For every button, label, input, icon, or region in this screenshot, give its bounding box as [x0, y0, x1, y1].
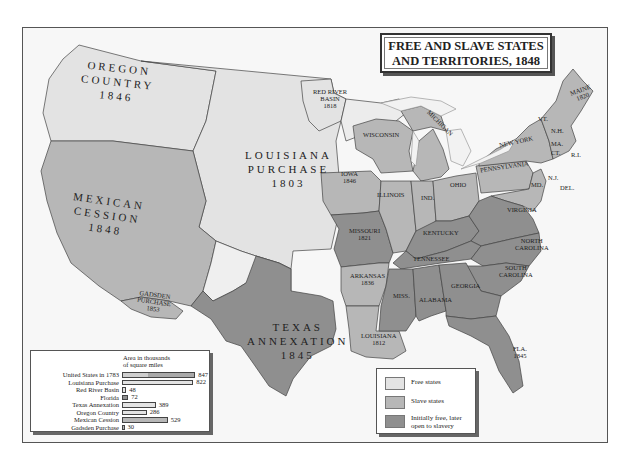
chart-category-label: Florida	[100, 394, 119, 401]
label-year: 1818	[313, 103, 347, 110]
chart-row: Texas Annexation389	[31, 401, 211, 408]
label-ohio: OHIO	[450, 182, 466, 189]
chart-row: Mexican Cession529	[31, 416, 211, 423]
chart-row: Red River Basin48	[31, 386, 211, 393]
chart-value-label: 847	[198, 371, 208, 378]
chart-row: United States in 1783847	[31, 371, 211, 378]
label-ri: R.I.	[571, 152, 581, 159]
label-text: TEXAS	[247, 321, 349, 335]
label-south-carolina: SOUTH CAROLINA	[499, 265, 533, 279]
label-illinois: ILLINOIS	[377, 192, 404, 199]
chart-bar	[122, 372, 195, 378]
chart-category-label: Mexican Cession	[74, 416, 119, 423]
label-year: 1821	[349, 235, 380, 242]
chart-value-label: 822	[196, 378, 206, 385]
chart-heading-line: of square miles	[123, 361, 170, 368]
legend-label: Free states	[411, 378, 441, 386]
legend-label-line: open to slavery	[411, 422, 462, 430]
title-line-1: FREE AND SLAVE STATES	[382, 39, 550, 54]
label-del: DEL.	[560, 185, 574, 192]
label-missouri: MISSOURI 1821	[349, 228, 380, 242]
legend-swatch-slave	[385, 396, 405, 409]
label-ind: IND.	[421, 195, 434, 202]
label-louisiana: LOUISIANA 1812	[361, 333, 396, 347]
label-md: MD.	[531, 182, 543, 189]
label-florida: FLA. 1845	[513, 346, 527, 360]
chart-bar	[122, 410, 147, 416]
chart-bar	[122, 417, 168, 423]
label-arkansas: ARKANSAS 1836	[350, 273, 385, 287]
chart-bar	[122, 395, 128, 401]
chart-bar	[122, 380, 193, 386]
chart-value-label: 72	[131, 393, 138, 400]
legend-label-line: Initially free, later	[411, 414, 462, 422]
label-alabama: ALABAMA	[419, 297, 452, 304]
label-year: 1812	[361, 340, 396, 347]
chart-heading-line: Area in thousands	[123, 354, 170, 361]
label-tennessee: TENNESSEE	[413, 256, 449, 263]
label-red-river-basin: RED RIVER BASIN 1818	[313, 89, 347, 109]
chart-row: Florida72	[31, 394, 211, 401]
label-louisiana-purchase: LOUISIANA PURCHASE 1803	[245, 149, 332, 190]
label-vt: VT.	[538, 116, 548, 123]
area-bar-chart: Area in thousands of square miles United…	[30, 350, 210, 432]
chart-category-label: Louisiana Purchase	[68, 379, 119, 386]
label-nj: N.J.	[548, 175, 558, 182]
label-year: 1845	[247, 349, 349, 363]
label-year: 1836	[350, 280, 385, 287]
chart-row: Louisiana Purchase822	[31, 379, 211, 386]
chart-category-label: Gadsden Purchase	[71, 424, 119, 431]
title-line-2: AND TERRITORIES, 1848	[382, 54, 550, 69]
legend-label: Initially free, later open to slavery	[411, 414, 462, 430]
label-year: 1846	[341, 178, 358, 185]
legend-swatch-initially-free	[385, 415, 405, 428]
chart-bar	[122, 387, 126, 393]
legend: Free states Slave states Initially free,…	[376, 368, 476, 434]
chart-category-label: Texas Annexation	[72, 401, 119, 408]
chart-bar	[122, 425, 125, 431]
chart-value-label: 30	[128, 423, 135, 430]
label-oregon-country: OREGON COUNTRY 1846	[79, 58, 156, 107]
label-north-carolina: NORTH CAROLINA	[515, 238, 549, 252]
label-nh: N.H.	[551, 128, 564, 135]
label-text: ANNEXATION	[247, 335, 349, 349]
chart-row: Gadsden Purchase30	[31, 424, 211, 431]
label-georgia: GEORGIA	[451, 283, 480, 290]
chart-bar	[122, 402, 156, 408]
chart-value-label: 529	[171, 416, 181, 423]
chart-category-label: United States in 1783	[63, 371, 119, 378]
chart-row: Oregon Country286	[31, 409, 211, 416]
legend-label: Slave states	[411, 397, 444, 405]
label-year: 1845	[513, 353, 527, 360]
label-texas-annexation: TEXAS ANNEXATION 1845	[247, 321, 349, 362]
map-title: FREE AND SLAVE STATES AND TERRITORIES, 1…	[380, 33, 552, 73]
chart-value-label: 48	[129, 386, 136, 393]
label-text: PURCHASE	[245, 163, 332, 177]
label-ma: MA.	[551, 141, 563, 148]
legend-swatch-free	[385, 377, 405, 390]
label-virginia: VIRGINIA	[507, 207, 537, 214]
label-text: CAROLINA	[499, 272, 533, 279]
chart-value-label: 286	[150, 408, 160, 415]
region-wisconsin	[353, 119, 413, 173]
label-wisconsin: WISCONSIN	[363, 132, 399, 139]
label-kentucky: KENTUCKY	[423, 230, 459, 237]
chart-category-label: Oregon Country	[77, 409, 119, 416]
label-miss: MISS.	[393, 293, 410, 300]
chart-heading: Area in thousands of square miles	[123, 354, 170, 368]
label-text: CAROLINA	[515, 245, 549, 252]
label-iowa: IOWA 1846	[341, 171, 358, 185]
label-text: LOUISIANA	[245, 149, 332, 163]
chart-value-label: 389	[159, 401, 169, 408]
label-year: 1803	[245, 177, 332, 191]
chart-category-label: Red River Basin	[76, 386, 119, 393]
label-ct: CT.	[551, 150, 560, 157]
